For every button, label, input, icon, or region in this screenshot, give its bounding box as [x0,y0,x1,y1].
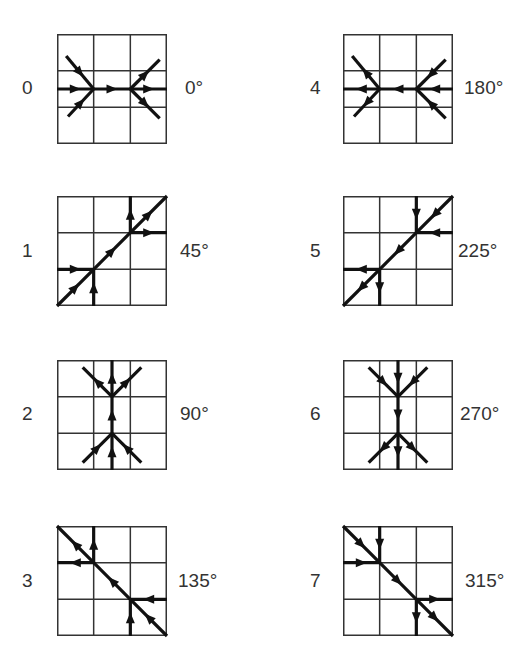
panel-index-label: 6 [310,403,321,425]
panel-angle-label: 180° [464,77,503,99]
direction-kernel-4 [343,34,453,144]
direction-kernel-1 [57,196,167,306]
arrowhead-icon [375,282,384,293]
flow-arrows [343,526,453,636]
direction-kernel-5 [343,196,453,306]
panel-angle-label: 135° [178,570,217,592]
flow-arrows [343,196,453,306]
direction-kernel-0 [57,34,167,144]
arrowhead-icon [394,373,403,384]
arrowhead-icon [356,558,367,567]
panel-angle-label: 315° [465,570,504,592]
flow-arrows [369,360,428,470]
panel-index-label: 0 [22,77,33,99]
arrowhead-icon [143,595,154,604]
arrowhead-icon [375,539,384,550]
flow-arrows [57,196,167,306]
panel-angle-label: 270° [460,403,499,425]
arrowhead-icon [70,265,81,274]
direction-kernel-3 [57,526,167,636]
panel-index-label: 3 [22,570,33,592]
panel-angle-label: 0° [185,77,203,99]
arrowhead-icon [412,209,421,220]
arrowhead-icon [107,85,118,94]
panel-index-label: 1 [22,240,33,262]
arrowhead-icon [394,446,403,457]
panel-index-label: 7 [310,570,321,592]
flow-arrows [83,360,142,470]
direction-kernel-7 [343,526,453,636]
arrowhead-icon [429,595,440,604]
arrowhead-icon [429,228,440,237]
arrowhead-icon [394,410,403,421]
arrowhead-icon [143,228,154,237]
arrowhead-icon [143,85,154,94]
flow-arrows [57,526,167,636]
panel-angle-label: 90° [180,403,209,425]
arrowhead-icon [70,85,81,94]
arrowhead-icon [108,446,117,457]
arrowhead-icon [89,539,98,550]
flow-arrows [57,56,167,118]
arrowhead-icon [412,612,421,623]
panel-angle-label: 225° [458,240,497,262]
direction-kernel-2 [57,360,167,470]
arrowhead-icon [429,85,440,94]
arrowhead-icon [356,265,367,274]
arrowhead-icon [393,85,404,94]
panel-index-label: 4 [310,77,321,99]
flow-arrows [343,56,453,118]
direction-kernel-6 [343,360,453,470]
arrowhead-icon [89,282,98,293]
arrowhead-icon [356,85,367,94]
panel-index-label: 2 [22,403,33,425]
arrowhead-icon [108,373,117,384]
arrowhead-icon [70,558,81,567]
arrowhead-icon [126,209,135,220]
panel-angle-label: 45° [180,240,209,262]
arrowhead-icon [126,612,135,623]
panel-index-label: 5 [310,240,321,262]
arrowhead-icon [108,410,117,421]
